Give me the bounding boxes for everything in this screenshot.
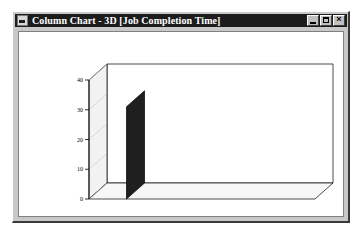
screenshot-root: Column Chart - 3D [Job Completion Time] … — [0, 0, 363, 245]
maximize-button[interactable] — [320, 15, 332, 26]
y-tick-label: 30 — [77, 107, 83, 113]
y-tick-label: 10 — [77, 166, 83, 172]
y-tick-label: 0 — [80, 196, 83, 202]
bar-1 — [127, 91, 145, 199]
window-controls: × — [307, 15, 345, 26]
bars-group — [127, 91, 145, 199]
chart-client-area: 010203040 — [18, 31, 344, 217]
close-icon: × — [334, 15, 344, 24]
minimize-button[interactable] — [307, 15, 319, 26]
window-titlebar[interactable]: Column Chart - 3D [Job Completion Time] … — [15, 14, 347, 27]
y-tick-label: 20 — [77, 137, 83, 143]
chart-floor — [89, 183, 333, 199]
chart-window: Column Chart - 3D [Job Completion Time] … — [12, 11, 350, 223]
chart-window-icon — [17, 15, 28, 26]
column-chart-3d: 010203040 — [19, 32, 343, 216]
bar-side-face — [127, 91, 145, 199]
close-button[interactable]: × — [333, 15, 345, 26]
y-tick-label: 40 — [77, 77, 83, 83]
chart-canvas: 010203040 — [19, 32, 343, 216]
window-title: Column Chart - 3D [Job Completion Time] — [32, 15, 307, 26]
